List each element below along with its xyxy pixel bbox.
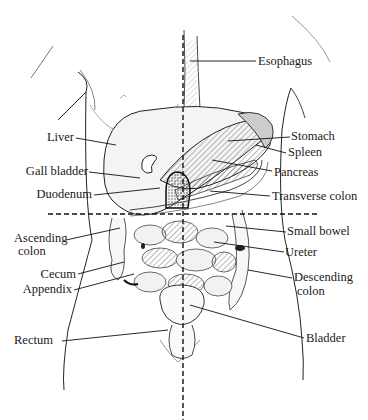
bladder-shape [160,285,204,325]
label-small-bowel: Small bowel [287,225,350,238]
label-appendix: Appendix [14,283,72,296]
label-stomach: Stomach [291,130,335,143]
label-transverse-colon: Transverse colon [272,190,357,203]
label-gall-bladder: Gall bladder [4,165,88,178]
label-cecum: Cecum [20,268,76,281]
anatomy-diagram: Liver Gall bladder Duodenum Ascending co… [0,0,368,420]
label-descending-colon-2: colon [297,285,325,298]
rectum-shape [169,325,195,359]
label-pancreas: Pancreas [274,166,318,179]
label-duodenum: Duodenum [14,188,92,201]
label-bladder: Bladder [306,332,346,345]
abdomen-illustration [0,0,368,420]
label-ascending-colon-2: colon [18,245,46,258]
esophagus-shape [184,30,200,110]
label-esophagus: Esophagus [258,55,312,68]
quadrant-lines [48,35,318,420]
label-spleen: Spleen [288,146,322,159]
label-descending-colon: Descending [294,271,353,284]
ascending-colon-shape [109,218,126,280]
label-ureter: Ureter [285,246,317,259]
label-liver: Liver [30,131,74,144]
label-rectum: Rectum [14,334,53,347]
